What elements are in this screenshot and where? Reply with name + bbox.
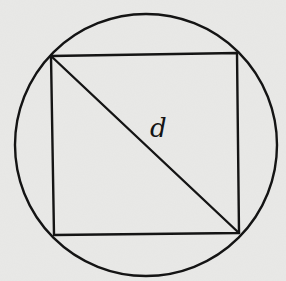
inscribed-square-diagram: d: [0, 0, 286, 281]
paper-background: [0, 0, 286, 281]
diagonal-label: d: [150, 113, 167, 143]
